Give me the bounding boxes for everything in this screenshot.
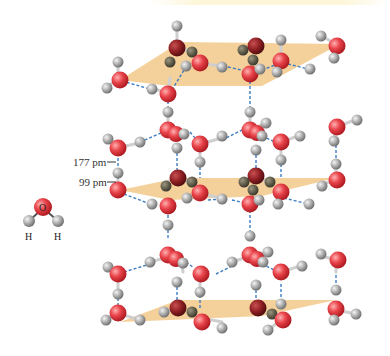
oxygen-atom xyxy=(112,72,129,89)
oxygen-atom xyxy=(273,134,290,151)
hbond-length-label: 177 pm xyxy=(73,156,107,168)
hydrogen-atom xyxy=(147,199,158,210)
hydrogen-atom xyxy=(276,299,287,310)
hydrogen-atom xyxy=(182,193,193,204)
hydrogen-atom xyxy=(263,325,274,336)
oxygen-atom xyxy=(192,185,209,202)
hydrogen-atom-behind-plane xyxy=(161,181,172,192)
hydrogen-atom xyxy=(172,277,183,288)
hydrogen-atom xyxy=(331,159,342,170)
oxygen-atom xyxy=(110,305,127,322)
hydrogen-atom xyxy=(273,199,284,210)
hydrogen-atom xyxy=(263,247,274,258)
hydrogen-atom xyxy=(261,118,272,129)
hydrogen-atom xyxy=(135,137,146,148)
hydrogen-atom xyxy=(178,258,189,269)
oxygen-atom-behind-plane xyxy=(248,38,265,55)
hydrogen-atom xyxy=(195,157,206,168)
hydrogen-atom xyxy=(272,67,283,78)
oxygen-atom xyxy=(330,252,347,269)
hydrogen-atom xyxy=(245,231,256,242)
hydrogen-atom-behind-plane xyxy=(239,177,250,188)
hydrogen-atom-behind-plane xyxy=(165,57,176,68)
hydrogen-atom xyxy=(145,257,156,268)
hydrogen-atom xyxy=(159,307,170,318)
hydrogen-atom xyxy=(276,155,287,166)
hydrogen-atom xyxy=(217,194,228,205)
hydrogen-atom xyxy=(305,64,316,75)
hydrogen-atom xyxy=(251,280,262,291)
hydrogen-atom xyxy=(113,57,124,68)
hydrogen-atom xyxy=(331,285,342,296)
oxygen-atom xyxy=(329,119,346,136)
measurement-labels: 177 pm 99 pm xyxy=(73,156,116,188)
hydrogen-atom-behind-plane xyxy=(238,45,249,56)
hydrogen-atom xyxy=(352,115,363,126)
oxygen-atom xyxy=(193,266,210,283)
hydrogen-atom xyxy=(258,257,269,268)
oxygen-atom xyxy=(110,266,127,283)
hydrogen-atom xyxy=(329,53,340,64)
hydrogen-atom-behind-plane xyxy=(187,307,198,318)
oxygen-atom xyxy=(194,314,211,331)
hydrogen-atom xyxy=(227,257,238,268)
oxygen-atom-behind-plane xyxy=(169,40,186,57)
hydrogen-atom xyxy=(217,323,228,334)
oxygen-atom xyxy=(160,86,177,103)
hydrogen-atom xyxy=(217,131,228,142)
ice-lattice-diagram: 177 pm 99 pm O H H xyxy=(0,0,390,356)
hydrogen-atom-behind-plane xyxy=(265,177,276,188)
hydrogen-atom xyxy=(295,131,306,142)
plane-top xyxy=(120,42,340,86)
hydrogen-atom xyxy=(181,61,192,72)
oxygen-atom xyxy=(160,198,177,215)
hydrogen-atom xyxy=(251,145,262,156)
oxygen-atom xyxy=(273,264,290,281)
oxygen-atom-behind-plane xyxy=(170,300,187,317)
oxygen-atom xyxy=(329,172,346,189)
hydrogen-atom xyxy=(172,21,183,32)
hydrogen-atom-behind-plane xyxy=(248,185,259,196)
hydrogen-atom xyxy=(255,64,266,75)
hydrogen-atom xyxy=(254,195,265,206)
oxygen-atom-behind-plane xyxy=(250,300,267,317)
hydrogen-atom xyxy=(23,215,35,227)
hydrogen-atom xyxy=(102,83,113,94)
hydrogen-atom xyxy=(163,220,174,231)
oxygen-atom-behind-plane xyxy=(248,168,265,185)
oxygen-atom xyxy=(192,136,209,153)
oxygen-atom xyxy=(110,182,127,199)
hydrogen-atom xyxy=(351,309,362,320)
hydrogen-atom xyxy=(163,107,174,118)
oxygen-atom xyxy=(275,312,292,329)
plane-bottom xyxy=(120,300,336,322)
hydrogen-atom xyxy=(147,84,158,95)
hydrogen-atom xyxy=(113,289,124,300)
hydrogen-atom xyxy=(135,315,146,326)
hydrogen-atom xyxy=(316,31,327,42)
covalent-length-label: 99 pm xyxy=(79,176,107,188)
hydrogen-atom xyxy=(195,287,206,298)
hydrogen-atom xyxy=(329,136,340,147)
hydrogen-atom xyxy=(172,143,183,154)
oxygen-atom xyxy=(329,38,346,55)
hydrogen-left-label: H xyxy=(25,231,32,242)
hydrogen-atom xyxy=(329,315,340,326)
hydrogen-atom xyxy=(317,181,328,192)
oxygen-atom xyxy=(192,55,209,72)
hydrogen-atom xyxy=(276,35,287,46)
hydrogen-atom xyxy=(257,131,268,142)
hydrogen-atom xyxy=(304,199,315,210)
hydrogen-atom xyxy=(179,129,190,140)
hydrogen-atom xyxy=(101,315,112,326)
hydrogen-atom xyxy=(52,215,64,227)
hydrogen-atom-behind-plane xyxy=(248,55,259,66)
hydrogen-atom xyxy=(113,168,124,179)
hydrogen-atom xyxy=(217,62,228,73)
oxygen-atom xyxy=(110,140,127,157)
hydrogen-atom xyxy=(316,249,327,260)
water-molecule-legend: O H H xyxy=(23,198,64,242)
hydrogen-atom xyxy=(297,261,308,272)
oxygen-label: O xyxy=(39,202,46,213)
oxygen-atom-behind-plane xyxy=(170,170,187,187)
